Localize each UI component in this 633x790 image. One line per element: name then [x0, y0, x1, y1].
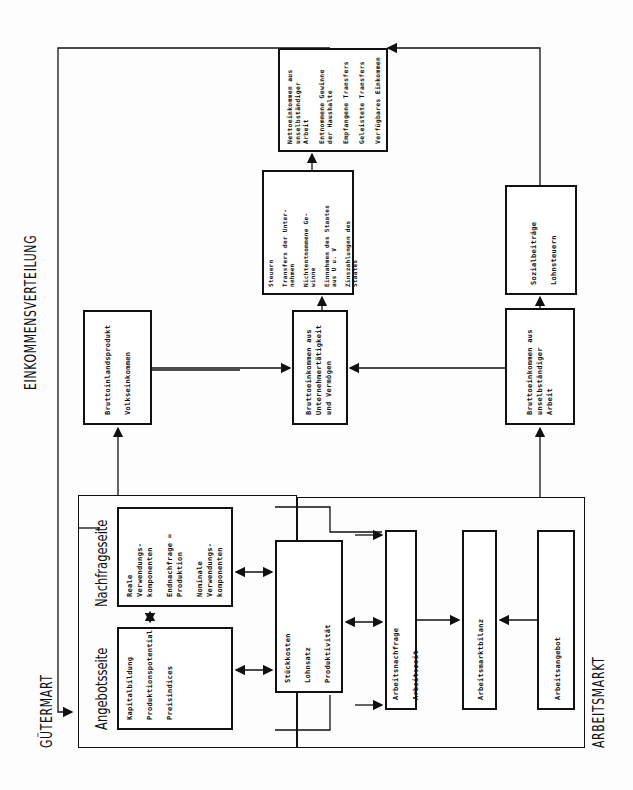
sozialbeitraege-box: Sozialbeiträge Lohnsteuern [505, 185, 577, 295]
arbeitsmarktbilanz-box: Arbeitsmarktbilanz [462, 530, 497, 710]
nachfrageseite-box: Reale Verwendungs- komponenten Endnachfr… [117, 507, 233, 607]
nachfrageseite-title: Nachfrageseite [92, 520, 111, 607]
arbeitsangebot-box: Arbeitsangebot [537, 530, 575, 710]
bruttoinlandsprodukt-box: Bruttoinlandsprodukt Volkseinkommen [83, 310, 152, 425]
stueckkosten-box: Stückkosten Lohnsatz Produktivität [275, 540, 343, 693]
diagram-stage: GÜTERMART EINKOMMENSVERTEILUNG ARBEITSMA… [0, 0, 633, 790]
bruttoeinkommen-unternehmer-box: Bruttoeinkommen aus Unternehmertätigkeit… [292, 310, 348, 425]
bruttoeinkommen-unselbstaendig-box: Bruttoeinkommen aus unselbständiger Arbe… [505, 308, 575, 425]
angebotsseite-title: Angebotsseite [92, 648, 111, 730]
angebotsseite-box: Kapitalbildung Produktionspotential Prei… [117, 627, 233, 730]
arbeitsnachfrage-box: Arbeitsnachfrage Arbeitszeit [385, 530, 417, 710]
haushalte-einkommen-box: Nettoeinkommen aus unselbständiger Arbei… [278, 48, 388, 152]
section-label-gutermarkt: GÜTERMART [38, 674, 56, 748]
steuern-box: Steuern Transfers der Unter- nehmen Nich… [262, 170, 354, 295]
section-label-einkommensverteilung: EINKOMMENSVERTEILUNG [22, 235, 40, 390]
section-label-arbeitsmarkt: ARBEITSMARKT [590, 657, 608, 748]
